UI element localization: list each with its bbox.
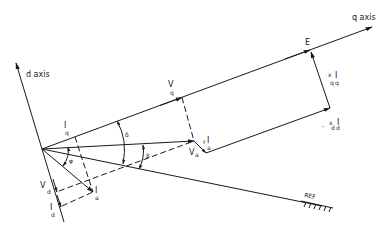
- iq-label: I q: [64, 121, 69, 137]
- svg-text:β: β: [146, 152, 150, 160]
- svg-text:d: d: [336, 124, 340, 131]
- svg-text:a: a: [95, 194, 99, 201]
- svg-text:q: q: [335, 79, 339, 87]
- reference-line: REF: [42, 149, 333, 212]
- svg-text:r: r: [203, 138, 206, 145]
- svg-text:q: q: [65, 129, 69, 137]
- e-phasor: E: [285, 38, 310, 59]
- vq-phasor: V q: [160, 80, 182, 106]
- e-label: E: [305, 38, 310, 47]
- svg-text:d: d: [51, 211, 55, 218]
- ref-label: REF: [304, 191, 317, 200]
- vd-phasor: V d: [40, 179, 57, 195]
- d-axis-label: d axis: [26, 70, 50, 79]
- q-axis-label: q axis: [352, 13, 376, 22]
- svg-text:d: d: [47, 188, 51, 195]
- xdid-phasor: - x d I d: [206, 108, 340, 153]
- xqiq-phasor: x q I q: [311, 52, 339, 108]
- svg-text:δ: δ: [125, 131, 129, 138]
- svg-text:a: a: [207, 144, 211, 151]
- svg-text:q: q: [170, 89, 174, 97]
- svg-text:x: x: [328, 71, 332, 78]
- angle-beta: β: [139, 145, 150, 169]
- svg-text:a: a: [195, 151, 199, 158]
- svg-text:q: q: [330, 79, 334, 87]
- projection-lines: [59, 98, 194, 207]
- va-phasor: V a: [42, 141, 199, 158]
- svg-text:φ: φ: [69, 157, 73, 165]
- d-axis: d axis: [16, 63, 64, 222]
- phasor-diagram: d axis q axis V q E REF V a I a r I a: [0, 0, 389, 235]
- angle-delta: δ: [117, 121, 129, 164]
- svg-text:V: V: [40, 181, 46, 190]
- angle-phi: φ: [63, 147, 73, 166]
- svg-text:V: V: [168, 80, 174, 89]
- svg-text:-: -: [322, 122, 324, 129]
- svg-text:d: d: [331, 124, 335, 131]
- q-axis: q axis: [42, 13, 376, 149]
